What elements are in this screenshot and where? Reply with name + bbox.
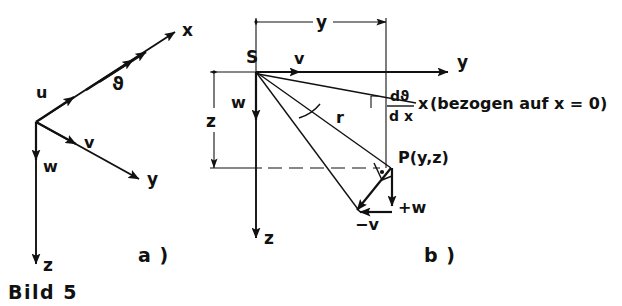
part-a-w-label: w [43,157,58,176]
part-a-z-axis-label: z [43,255,53,275]
part-b-resultant-vector [357,168,391,210]
part-a-group: x y z u v w ϑ a ) [36,20,193,275]
part-b-group: y z y z S v w [204,10,607,266]
formula-denominator: d x [389,108,413,124]
part-a-x-axis-label: x [182,20,193,40]
part-b-right-angle-dot [380,170,384,174]
part-b-z-axis-label: z [264,228,274,248]
formula-note: (bezogen auf x = 0) [430,94,607,113]
part-a-v-label: v [84,133,95,152]
part-b-origin-label: S [246,47,258,67]
figure-bild-5: x y z u v w ϑ a ) [0,0,622,306]
part-b-minus-v-label: −v [355,215,379,234]
part-b-formula-group: dϑ d x x (bezogen auf x = 0) [387,88,607,124]
part-b-label: b ) [424,244,456,266]
part-b-point-label: P(y,z) [398,148,449,167]
part-b-radius-line-displaced [256,72,360,212]
formula-numerator: dϑ [390,88,409,104]
part-a-label: a ) [138,244,169,266]
part-b-plus-w-label: +w [398,198,426,217]
part-a-u-label: u [36,83,47,102]
part-b-y-axis-label: y [457,52,468,72]
part-b-z-dimension-label: z [206,111,216,131]
part-a-theta-label: ϑ [112,73,124,94]
formula-multiplier: x [418,94,429,113]
part-b-y-dimension-label: y [316,12,327,32]
part-b-r-label: r [336,108,344,127]
part-a-y-axis-label: y [147,169,158,189]
part-b-v-label: v [294,49,305,68]
figure-canvas: x y z u v w ϑ a ) [0,0,622,306]
part-a-v-vector [36,122,76,144]
figure-caption: Bild 5 [8,281,78,303]
part-b-w-label: w [231,93,246,112]
